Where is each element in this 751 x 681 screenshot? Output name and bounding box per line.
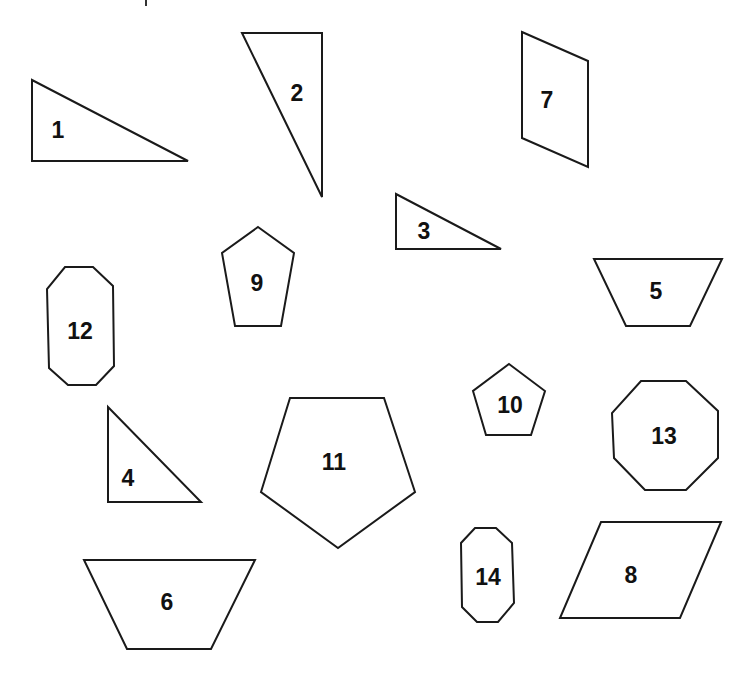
shape-right-triangle-3: 3 [396,194,501,249]
shape-number-label: 2 [291,80,304,106]
shape-number-label: 8 [625,562,638,588]
right-triangle-outline [396,194,501,249]
shape-number-label: 6 [161,589,174,615]
shape-right-triangle-4: 4 [108,407,201,502]
shape-parallelogram-7: 7 [522,32,588,167]
shape-layer: 1234567891011121314 [32,32,722,649]
shape-number-label: 13 [651,423,677,449]
shape-number-label: 11 [322,449,347,475]
shape-number-label: 12 [67,318,93,344]
shape-number-label: 10 [497,392,523,418]
shape-number-label: 5 [650,278,663,304]
shapes-diagram: 1234567891011121314 [0,0,751,681]
parallelogram-outline [522,32,588,167]
shapes-svg: 1234567891011121314 [0,0,751,681]
shape-trapezoid-5: 5 [594,259,722,326]
shape-right-triangle-1: 1 [32,80,188,161]
shape-pentagon-11: 11 [261,398,415,548]
right-triangle-outline [242,33,322,197]
shape-trapezoid-6: 6 [84,560,255,649]
shape-octagon-14: 14 [461,528,514,622]
shape-number-label: 3 [418,218,431,244]
shape-octagon-12: 12 [47,267,114,385]
parallelogram-outline [560,522,721,618]
shape-number-label: 1 [52,117,65,143]
shape-pentagon-10: 10 [473,364,545,435]
shape-pentagon-9: 9 [222,227,294,326]
shape-right-triangle-2: 2 [242,33,322,197]
shape-parallelogram-8: 8 [560,522,721,618]
shape-octagon-13: 13 [612,381,718,490]
shape-number-label: 7 [541,87,554,113]
shape-number-label: 9 [251,270,264,296]
shape-number-label: 4 [122,465,135,491]
shape-number-label: 14 [475,564,501,590]
